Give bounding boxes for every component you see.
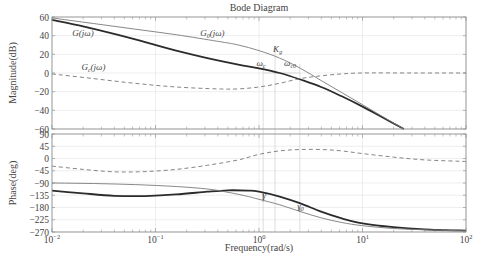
y-tick-label: 0 [44,154,49,164]
y-tick-label: 20 [40,50,50,60]
x-tick-label: 101 [356,233,369,245]
annotation-label: G(jω) [72,28,93,38]
y-tick-label: −45 [34,166,49,176]
y-tick-label: −90 [34,179,49,189]
y-tick-label: −225 [29,215,49,225]
x-tick-label: 10−2 [44,233,60,245]
annotation-label: γ0 [297,201,304,212]
y-tick-label: 90 [40,130,50,140]
y-tick-label: −180 [29,203,49,213]
annotation-label: Kg [272,44,282,55]
phase-ylabel: Phase(deg) [7,161,19,205]
annotation-label: ωc [257,58,266,69]
y-tick-label: 45 [40,142,50,152]
y-tick-label: 60 [40,13,50,23]
y-tick-label: −135 [29,191,49,201]
chart-title: Bode Diagram [230,2,289,13]
x-tick-label: 10−1 [147,233,163,245]
x-axis-label: Frequency(rad/s) [225,242,293,254]
y-tick-label: 40 [40,31,50,41]
annotation-label: G0(jω) [200,28,224,39]
y-tick-label: −40 [34,106,49,116]
bode-diagram: Bode Diagram 6040200−20−40−60 90450−45−9… [0,0,478,266]
phase-grid [52,134,466,232]
bode-chart-svg: Bode Diagram 6040200−20−40−60 90450−45−9… [0,0,478,266]
magnitude-ylabel: Magnitude(dB) [7,42,19,104]
y-tick-label: 0 [44,69,49,79]
series-magnitude-gj [52,20,404,129]
marker-lines [263,47,300,232]
y-tick-label: −20 [34,87,49,97]
annotation-label: γ [262,190,266,200]
annotation-label: ωc0 [284,58,296,69]
annotation-label: Gc(jω) [81,62,105,73]
x-tick-label: 102 [460,233,473,245]
